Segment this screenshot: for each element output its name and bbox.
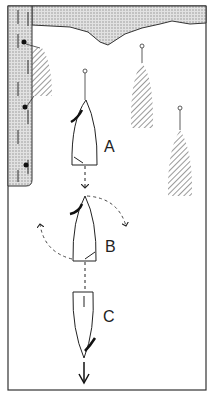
diagram-canvas: A B C bbox=[0, 0, 214, 400]
label-c: C bbox=[103, 308, 115, 325]
bollard-icon bbox=[23, 105, 28, 110]
label-a: A bbox=[104, 138, 115, 155]
quay-wall bbox=[8, 6, 32, 186]
bollard-icon bbox=[24, 163, 29, 168]
bollard-icon bbox=[22, 40, 27, 45]
label-b: B bbox=[105, 238, 116, 255]
